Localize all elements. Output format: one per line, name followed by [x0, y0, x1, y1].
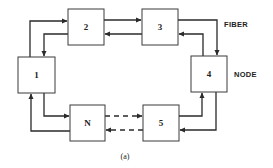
fiber-3-to-4	[178, 20, 217, 55]
fiber-5-to-4	[179, 93, 202, 116]
fiber-4-to-3	[179, 34, 203, 56]
node-4-label: 4	[207, 69, 212, 79]
node-1: 1	[18, 57, 55, 93]
node-3-label: 3	[158, 22, 163, 32]
node-2-label: 2	[84, 22, 89, 32]
fiber-1-to-2	[30, 21, 67, 57]
node-5-label: 5	[159, 118, 164, 128]
fiber-1-to-N	[44, 93, 69, 116]
node-1-label: 1	[34, 70, 39, 80]
ring-network-diagram: 1 2 3 4 5 N FIBER NODE (a)	[0, 0, 273, 168]
fiber-2-to-1	[44, 34, 68, 56]
node-N: N	[70, 105, 105, 141]
node-N-label: N	[84, 118, 91, 128]
node-2: 2	[68, 9, 104, 45]
node-3: 3	[142, 9, 178, 45]
node-label: NODE	[234, 70, 257, 79]
node-4: 4	[191, 56, 227, 92]
fiber-label: FIBER	[224, 20, 248, 29]
fiber-4-to-5	[180, 92, 216, 130]
figure-caption: (a)	[121, 152, 130, 161]
node-5: 5	[143, 105, 179, 141]
connections	[30, 20, 217, 131]
fiber-N-to-1	[31, 94, 70, 131]
